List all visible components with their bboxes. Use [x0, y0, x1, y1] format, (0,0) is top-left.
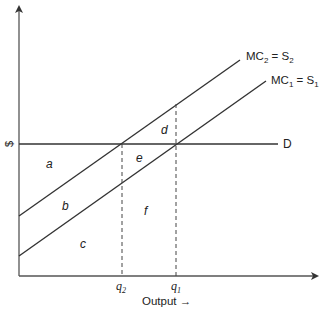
- area-a-label: a: [46, 157, 53, 171]
- area-b-label: b: [62, 199, 69, 213]
- demand-label: D: [283, 137, 292, 151]
- x-axis-label: Output →: [142, 295, 191, 307]
- area-e-label: e: [136, 151, 143, 165]
- mc2-supply-line: [19, 60, 240, 216]
- area-f-label: f: [144, 204, 149, 218]
- q1-label: q1: [171, 279, 181, 295]
- q2-label: q2: [116, 279, 126, 295]
- mc1-supply-line: [19, 81, 266, 256]
- mc1-label: MC1 = S1: [271, 74, 319, 89]
- mc2-label: MC2 = S2: [246, 50, 294, 65]
- area-c-label: c: [80, 237, 86, 251]
- y-axis-label: $: [3, 141, 15, 147]
- area-d-label: d: [161, 123, 168, 137]
- externality-diagram: $ MC2 = S2 MC1 = S1 D a b c d e f q2 q1 …: [0, 0, 321, 309]
